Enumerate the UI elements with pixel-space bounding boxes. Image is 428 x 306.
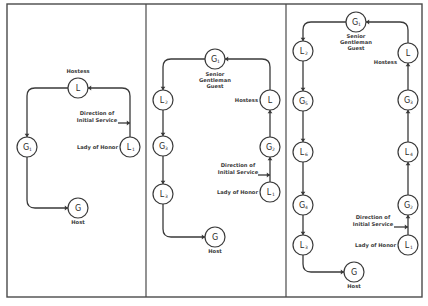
seat-subscript: 3 (165, 194, 168, 199)
seat-subscript: 5 (305, 101, 308, 106)
seat-node-hostess: L (260, 90, 280, 110)
role-label: Lady of Honor (217, 189, 258, 196)
seat-letter: L (268, 96, 273, 105)
seat-node-lady-of-honor: L1 (120, 137, 140, 157)
role-label: Hostess (374, 59, 397, 65)
seat-subscript: 6 (305, 152, 308, 157)
seat-subscript: 1 (272, 192, 275, 197)
role-label: Host (347, 283, 361, 289)
seat-subscript: 2 (305, 51, 308, 56)
seat-subscript: 1 (132, 147, 135, 152)
seat-node-host: G (68, 198, 88, 218)
seat-subscript: 4 (305, 205, 308, 210)
seat-subscript: 1 (358, 22, 361, 27)
seat-subscript: 3 (305, 245, 308, 250)
seat-node-g2: G2 (260, 137, 280, 157)
seat-node-l4: L4 (398, 142, 418, 162)
seat-node-g4: G4 (293, 195, 313, 215)
seat-node-l3: L3 (293, 235, 313, 255)
seat-subscript: 2 (272, 147, 275, 152)
seat-node-host: G (344, 262, 364, 282)
role-label: Initial Service (77, 117, 118, 123)
seat-letter: L (406, 49, 411, 58)
seat-letter: G (75, 204, 81, 213)
seat-subscript: 4 (410, 152, 413, 157)
role-label: Lady of Honor (77, 144, 118, 151)
seat-node-hostess: L (398, 43, 418, 63)
role-label: Direction of (221, 162, 256, 168)
role-label: Initial Service (353, 221, 394, 227)
seat-node-g3: G3 (398, 90, 418, 110)
role-label: Host (208, 248, 222, 254)
role-label: Direction of (356, 214, 391, 220)
seat-node-g2: G2 (398, 195, 418, 215)
seat-node-lady-of-honor: L1 (260, 182, 280, 202)
role-label: Hostess (235, 97, 258, 103)
seat-subscript: 3 (410, 100, 413, 105)
role-label: Direction of (80, 110, 115, 116)
seat-node-l6: L6 (293, 142, 313, 162)
seat-subscript: 2 (410, 205, 413, 210)
seat-subscript: 3 (165, 146, 168, 151)
role-label: Lady of Honor (355, 242, 396, 249)
seat-node-hostess: L (68, 78, 88, 98)
role-label: Hostess (66, 68, 89, 74)
seat-node-g1: G1 (17, 137, 37, 157)
seat-letter: G (212, 233, 218, 242)
seat-node-senior-gentleman-guest: G1 (205, 49, 225, 69)
seat-node-g5: G5 (293, 91, 313, 111)
role-label: Initial Service (218, 169, 259, 175)
role-label: Guest (206, 83, 224, 89)
seat-node-l3: L3 (153, 184, 173, 204)
seat-node-l2: L2 (153, 90, 173, 110)
role-label: Guest (347, 45, 365, 51)
seat-letter: G (351, 268, 357, 277)
seat-node-lady-of-honor: L1 (398, 235, 418, 255)
seat-node-host: G (205, 227, 225, 247)
seat-node-g3: G3 (153, 136, 173, 156)
role-label: Host (71, 219, 85, 225)
seat-subscript: 1 (29, 147, 32, 152)
seat-letter: L (76, 84, 81, 93)
seat-subscript: 2 (165, 100, 168, 105)
seat-subscript: 1 (410, 245, 413, 250)
seating-service-diagram: LG1L1GHostessDirection ofInitial Service… (0, 0, 428, 306)
seat-node-senior-gentleman-guest: G1 (346, 12, 366, 32)
seat-node-l2: L2 (293, 41, 313, 61)
seat-subscript: 1 (217, 59, 220, 64)
